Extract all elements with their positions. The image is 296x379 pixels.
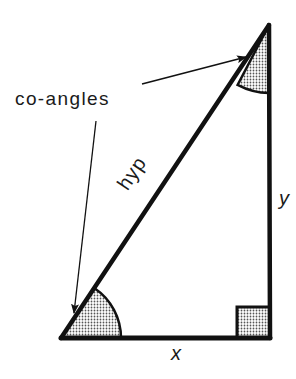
right-triangle-diagram bbox=[0, 0, 296, 379]
coangles-label: co-angles bbox=[15, 89, 110, 108]
side-y-label: y bbox=[279, 188, 289, 208]
right-angle-marker bbox=[237, 307, 270, 338]
hypotenuse-side bbox=[61, 25, 269, 338]
arrow-to-bottom-angle bbox=[74, 121, 96, 313]
vertical-side-y bbox=[269, 25, 270, 338]
side-x-label: x bbox=[171, 343, 181, 363]
